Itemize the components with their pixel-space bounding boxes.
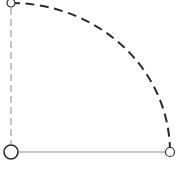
top-node-circle[interactable] (7, 0, 15, 7)
quarter-arc-figure (0, 0, 183, 169)
right-node-circle[interactable] (166, 148, 175, 157)
diagram-canvas (0, 0, 183, 169)
canvas-background (0, 0, 183, 169)
origin-node-circle[interactable] (4, 145, 18, 159)
